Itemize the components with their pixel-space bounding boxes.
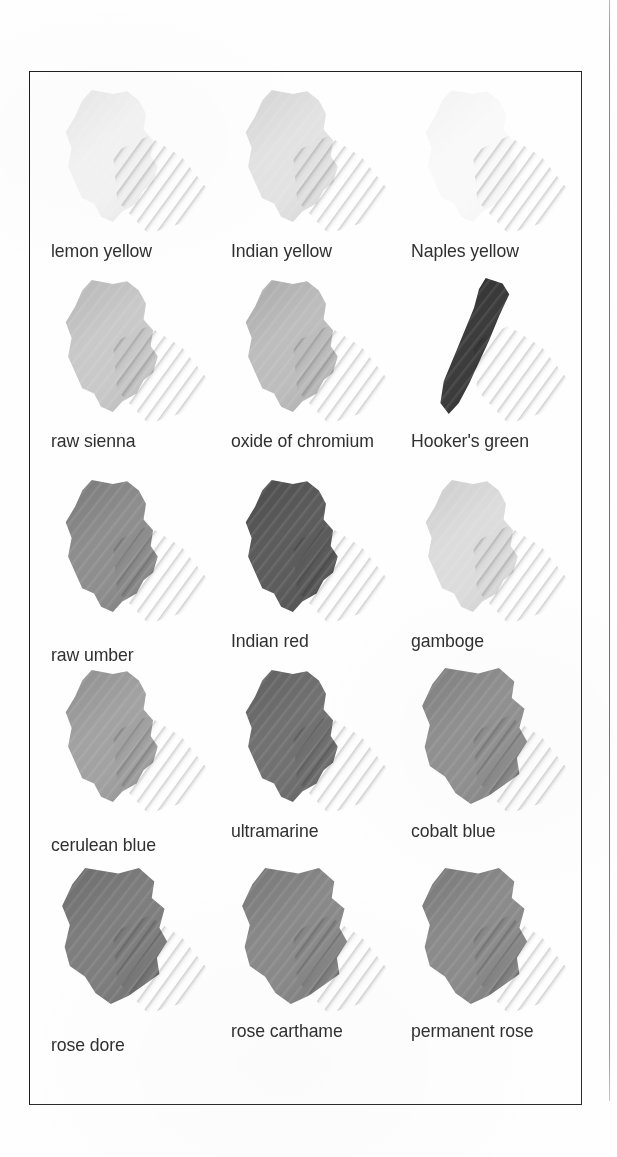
swatch-cell: Hooker's green (411, 276, 591, 472)
drybrush-tail (113, 914, 217, 1018)
drybrush-tail (113, 714, 217, 818)
drybrush-tail (113, 324, 217, 428)
drybrush-tail (293, 914, 397, 1018)
swatch-label: ultramarine (231, 820, 318, 842)
drybrush-tail (473, 134, 577, 238)
drybrush-tail (293, 714, 397, 818)
drybrush-tail (473, 914, 577, 1018)
swatch-cell: Indian red (231, 476, 411, 672)
swatch-label: raw umber (51, 644, 134, 666)
paint-swatch (51, 666, 201, 816)
paint-swatch (51, 86, 201, 236)
swatch-cell: gamboge (411, 476, 591, 672)
swatch-label: rose carthame (231, 1020, 343, 1042)
swatch-cell: cobalt blue (411, 666, 591, 862)
swatch-cell: rose dore (51, 866, 231, 1062)
paint-swatch (411, 476, 561, 626)
swatch-label: lemon yellow (51, 240, 152, 262)
swatch-label: rose dore (51, 1034, 125, 1056)
drybrush-tail (113, 524, 217, 628)
swatch-cell: Indian yellow (231, 86, 411, 282)
paint-swatch (411, 276, 561, 426)
drybrush-tail (473, 324, 577, 428)
paint-swatch (231, 666, 381, 816)
paint-swatch (51, 476, 201, 626)
swatch-label: cobalt blue (411, 820, 495, 842)
page-gutter-rule (609, 0, 610, 1101)
swatch-cell: raw sienna (51, 276, 231, 472)
swatch-label: gamboge (411, 630, 484, 652)
drybrush-tail (293, 524, 397, 628)
swatch-cell: permanent rose (411, 866, 591, 1062)
swatch-cell: lemon yellow (51, 86, 231, 282)
paint-swatch (51, 866, 201, 1016)
paint-swatch (231, 276, 381, 426)
paint-swatch (411, 666, 561, 816)
drybrush-tail (293, 134, 397, 238)
drybrush-tail (113, 134, 217, 238)
swatch-label: Hooker's green (411, 430, 529, 452)
swatch-cell: raw umber (51, 476, 231, 672)
paint-swatch (231, 86, 381, 236)
drybrush-tail (473, 524, 577, 628)
paint-swatch (231, 476, 381, 626)
swatch-label: Naples yellow (411, 240, 519, 262)
paint-swatch (411, 866, 561, 1016)
swatch-label: Indian red (231, 630, 309, 652)
paint-swatch (51, 276, 201, 426)
paint-swatch (231, 866, 381, 1016)
drybrush-tail (293, 324, 397, 428)
paint-swatch (411, 86, 561, 236)
swatch-cell: rose carthame (231, 866, 411, 1062)
scanned-page: lemon yellowIndian yellowNaples yellowra… (0, 0, 617, 1157)
swatch-label: oxide of chromium (231, 430, 374, 452)
swatch-cell: cerulean blue (51, 666, 231, 862)
swatch-cell: oxide of chromium (231, 276, 411, 472)
swatch-label: raw sienna (51, 430, 136, 452)
swatch-chart-frame: lemon yellowIndian yellowNaples yellowra… (29, 71, 582, 1105)
swatch-cell: ultramarine (231, 666, 411, 862)
swatch-label: permanent rose (411, 1020, 533, 1042)
swatch-cell: Naples yellow (411, 86, 591, 282)
drybrush-tail (473, 714, 577, 818)
swatch-label: Indian yellow (231, 240, 332, 262)
swatch-label: cerulean blue (51, 834, 156, 856)
